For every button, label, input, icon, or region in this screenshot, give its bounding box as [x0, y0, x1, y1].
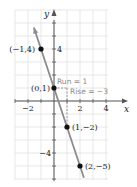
x-axis-label: x [124, 104, 129, 114]
y-tick-label: −4 [39, 149, 51, 158]
run-annotation: Run = 1 [57, 77, 87, 86]
y-axis-label: y [43, 9, 50, 19]
x-axis-arrow-icon [122, 99, 128, 104]
line-chart: x y −2244−4 Run = 1Rise = −3 (−1,4)(0,1)… [0, 0, 137, 187]
data-point [77, 163, 82, 168]
data-point [51, 85, 56, 90]
point-label: (2,−5) [85, 162, 111, 171]
x-tick-label: 4 [103, 104, 108, 113]
point-label: (−1,4) [9, 45, 35, 54]
data-point [38, 46, 43, 51]
line-arrow-icon [33, 28, 38, 35]
x-tick-label: 2 [77, 104, 82, 113]
x-tick-label: −2 [22, 104, 34, 113]
data-point [64, 124, 69, 129]
run-rise-annotations: Run = 1Rise = −3 [54, 77, 108, 127]
point-label: (0,1) [31, 84, 50, 93]
rise-annotation: Rise = −3 [70, 87, 108, 96]
y-tick-label: 4 [57, 45, 62, 54]
point-label: (1,−2) [72, 123, 98, 132]
